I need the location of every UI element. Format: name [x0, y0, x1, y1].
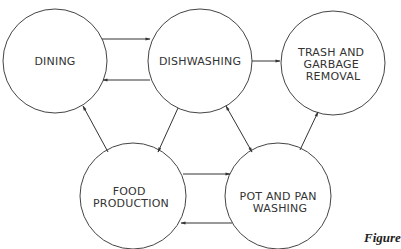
- edge-pot-to-trash: [300, 112, 318, 150]
- edge-dishwashing-to-food: [158, 108, 178, 152]
- label-food-production: FOOD PRODUCTION: [93, 185, 169, 210]
- label-pot-pan-washing: POT AND PAN WASHING: [240, 190, 321, 215]
- figure-caption: Figure: [364, 230, 401, 246]
- edge-food-to-dining: [83, 106, 108, 152]
- edge-dishwashing-pot-bidirectional: [226, 106, 252, 152]
- label-trash: TRASH AND GARBAGE REMOVAL: [297, 46, 368, 83]
- label-dining: DINING: [34, 55, 75, 68]
- label-dishwashing: DISHWASHING: [159, 55, 241, 68]
